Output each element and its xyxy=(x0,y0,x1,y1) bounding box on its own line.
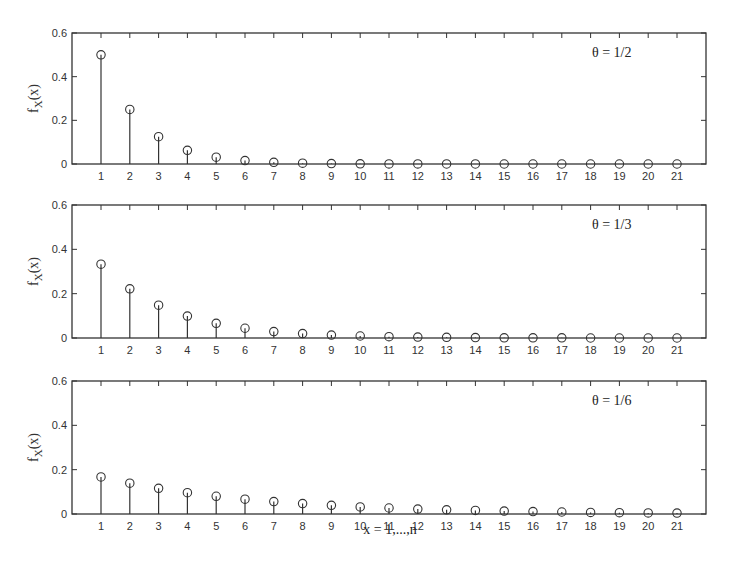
x-tick-label: 12 xyxy=(412,170,424,182)
x-tick-label: 8 xyxy=(300,520,306,532)
x-tick-label: 15 xyxy=(498,520,510,532)
x-tick-label: 19 xyxy=(613,344,625,356)
x-tick-label: 11 xyxy=(383,344,394,356)
x-tick-label: 13 xyxy=(440,520,452,532)
y-tick-label: 0.6 xyxy=(52,199,67,211)
x-tick-label: 4 xyxy=(184,520,190,532)
x-tick-label: 13 xyxy=(440,344,452,356)
x-tick-label: 6 xyxy=(242,170,248,182)
x-tick-label: 20 xyxy=(642,520,654,532)
x-tick-label: 6 xyxy=(242,520,248,532)
x-tick-label: 3 xyxy=(156,170,162,182)
x-tick-label: 12 xyxy=(412,344,424,356)
theta-annotation: θ = 1/3 xyxy=(592,217,632,232)
x-tick-label: 2 xyxy=(127,170,133,182)
x-tick-label: 5 xyxy=(213,170,219,182)
x-tick-label: 9 xyxy=(328,344,334,356)
x-tick-label: 18 xyxy=(584,344,596,356)
x-tick-label: 21 xyxy=(671,520,683,532)
x-tick-label: 2 xyxy=(127,344,133,356)
x-tick-label: 20 xyxy=(642,344,654,356)
y-tick-label: 0 xyxy=(61,332,67,344)
subplot-3: 00.20.40.6123456789101112131415161718192… xyxy=(26,375,706,532)
x-tick-label: 16 xyxy=(527,344,539,356)
x-tick-label: 1 xyxy=(98,170,104,182)
y-tick-label: 0.2 xyxy=(52,288,67,300)
x-tick-label: 17 xyxy=(556,520,568,532)
y-tick-label: 0.4 xyxy=(52,71,67,83)
subplot-1: 00.20.40.6123456789101112131415161718192… xyxy=(26,27,706,182)
x-tick-label: 11 xyxy=(383,170,394,182)
y-tick-label: 0 xyxy=(61,158,67,170)
x-tick-label: 20 xyxy=(642,170,654,182)
subplot-2: 00.20.40.6123456789101112131415161718192… xyxy=(26,199,706,356)
y-tick-label: 0.6 xyxy=(52,375,67,387)
x-tick-label: 4 xyxy=(184,344,190,356)
theta-annotation: θ = 1/2 xyxy=(592,45,632,60)
x-tick-label: 3 xyxy=(156,344,162,356)
x-tick-label: 9 xyxy=(328,520,334,532)
x-tick-label: 8 xyxy=(300,170,306,182)
y-tick-label: 0.6 xyxy=(52,27,67,39)
x-tick-label: 14 xyxy=(469,170,481,182)
x-tick-label: 3 xyxy=(156,520,162,532)
x-tick-label: 16 xyxy=(527,520,539,532)
x-tick-label: 1 xyxy=(98,344,104,356)
x-tick-label: 17 xyxy=(556,344,568,356)
x-axis-label: x = 1,...,n xyxy=(363,522,416,537)
stem-marker xyxy=(442,333,450,341)
y-tick-label: 0.2 xyxy=(52,114,67,126)
x-tick-label: 19 xyxy=(613,520,625,532)
x-tick-label: 7 xyxy=(271,344,277,356)
x-tick-label: 8 xyxy=(300,344,306,356)
y-tick-label: 0.4 xyxy=(52,243,67,255)
x-tick-label: 21 xyxy=(671,170,683,182)
x-tick-label: 10 xyxy=(354,344,366,356)
x-tick-label: 6 xyxy=(242,344,248,356)
x-tick-label: 18 xyxy=(584,170,596,182)
y-axis-label: fX(x) xyxy=(26,433,44,462)
x-tick-label: 2 xyxy=(127,520,133,532)
x-tick-label: 10 xyxy=(354,170,366,182)
y-axis-label: fX(x) xyxy=(26,257,44,286)
y-tick-label: 0.4 xyxy=(52,419,67,431)
x-tick-label: 4 xyxy=(184,170,190,182)
x-tick-label: 14 xyxy=(469,520,481,532)
x-tick-label: 7 xyxy=(271,520,277,532)
x-tick-label: 14 xyxy=(469,344,481,356)
x-tick-label: 1 xyxy=(98,520,104,532)
x-tick-label: 5 xyxy=(213,344,219,356)
x-tick-label: 15 xyxy=(498,170,510,182)
y-tick-label: 0 xyxy=(61,508,67,520)
x-tick-label: 13 xyxy=(440,170,452,182)
x-tick-label: 7 xyxy=(271,170,277,182)
theta-annotation: θ = 1/6 xyxy=(592,393,632,408)
stem-plot-figure: 00.20.40.6123456789101112131415161718192… xyxy=(0,0,731,572)
x-tick-label: 9 xyxy=(328,170,334,182)
y-tick-label: 0.2 xyxy=(52,464,67,476)
x-tick-label: 17 xyxy=(556,170,568,182)
stem-marker xyxy=(385,332,393,340)
x-tick-label: 18 xyxy=(584,520,596,532)
x-tick-label: 5 xyxy=(213,520,219,532)
x-tick-label: 15 xyxy=(498,344,510,356)
x-tick-label: 19 xyxy=(613,170,625,182)
x-tick-label: 21 xyxy=(671,344,683,356)
y-axis-label: fX(x) xyxy=(26,84,44,113)
x-tick-label: 16 xyxy=(527,170,539,182)
